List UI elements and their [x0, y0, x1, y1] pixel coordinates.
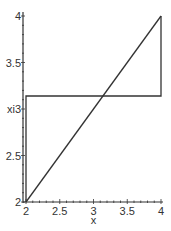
x-tick-label: 3.5: [120, 205, 135, 217]
x-tick-label: 2.5: [52, 205, 67, 217]
y-tick-label: 4: [15, 10, 21, 22]
y-tick-label: xi3: [7, 103, 21, 115]
y-tick-label: 3.5: [6, 57, 21, 69]
x-tick-label: 4: [158, 205, 164, 217]
series-layer: [26, 16, 161, 202]
series-diagonal: [26, 16, 161, 202]
x-axis-title: x: [91, 214, 97, 226]
y-tick-label: 2: [15, 196, 21, 208]
y-axis-ticks: 22.5xi33.54: [6, 10, 25, 208]
y-tick-label: 2.5: [6, 150, 21, 162]
chart-canvas: 22.533.54 22.5xi33.54 x: [0, 0, 171, 231]
x-tick-label: 2: [23, 205, 29, 217]
axes-layer: [23, 12, 163, 203]
